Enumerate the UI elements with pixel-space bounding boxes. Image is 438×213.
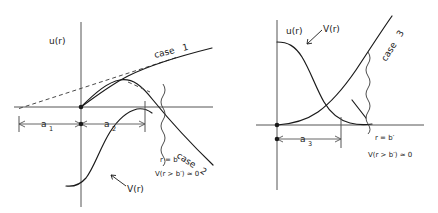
physics-diagram: u(r) a 1 a 2 case 1 — [0, 0, 438, 213]
right-potential-pointer-icon — [307, 30, 322, 44]
left-dim-origin-dot — [79, 122, 84, 127]
left-dim-label-a2: a — [104, 119, 110, 129]
left-asymptote-stub — [128, 82, 150, 92]
right-boundary-label: r = b′ — [375, 134, 395, 142]
right-crossing-stub — [352, 100, 366, 118]
left-boundary-wavy-line — [161, 84, 165, 166]
left-label-case1-group: case 1 — [153, 42, 189, 60]
left-label-case2-number: 2 — [198, 166, 208, 178]
left-curve-case1 — [81, 48, 212, 107]
left-dim-label-a1: a — [41, 119, 47, 129]
left-dim-sub-a1: 1 — [49, 125, 53, 133]
left-origin-dot — [79, 105, 84, 110]
left-panel: u(r) a 1 a 2 case 1 — [14, 22, 213, 207]
right-label-case3: case — [379, 40, 399, 63]
left-label-case1: case — [153, 45, 176, 60]
left-potential-condition: V(r > b′) ≈ 0 — [155, 170, 199, 178]
left-dim-sub-a2: 2 — [112, 125, 116, 133]
right-label-case3-number: 3 — [395, 28, 407, 38]
left-potential-pointer-icon — [111, 175, 126, 186]
right-label-case3-group: case 3 — [379, 28, 406, 63]
right-axis-label-u: u(r) — [286, 26, 302, 36]
left-axis-label-u: u(r) — [49, 36, 65, 46]
left-potential-label: V(r) — [127, 184, 144, 194]
right-potential-label: V(r) — [323, 24, 340, 34]
right-dim-label-a3: a — [300, 134, 306, 144]
left-boundary-label: r = b′ — [160, 156, 180, 164]
right-panel: u(r) a 3 case 3 r = b′ V(r > b′) ≈ 0 — [256, 16, 424, 190]
right-origin-dot — [275, 123, 280, 128]
right-boundary-wavy-line — [366, 52, 370, 134]
right-dim-sub-a3: 3 — [308, 140, 312, 148]
right-dim-origin-dot — [275, 137, 280, 142]
right-curve-potential — [277, 42, 372, 125]
figure-container: u(r) a 1 a 2 case 1 — [0, 0, 438, 213]
left-label-case1-number: 1 — [181, 42, 189, 53]
right-potential-condition: V(r > b′) ≈ 0 — [368, 151, 412, 159]
